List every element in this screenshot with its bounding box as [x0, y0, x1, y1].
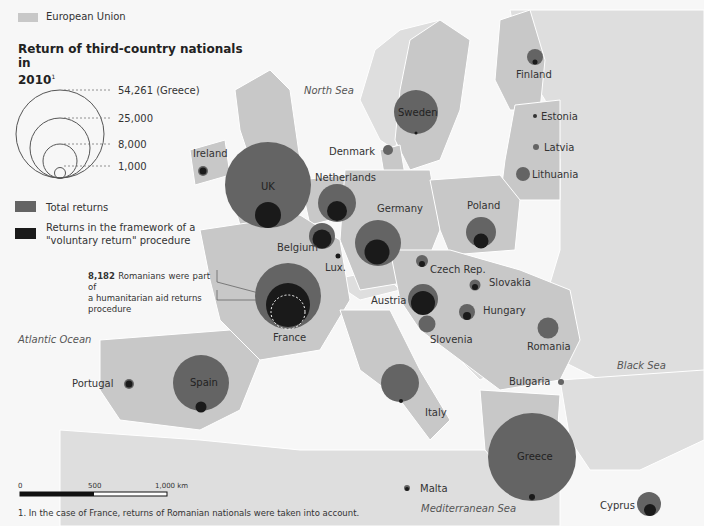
label-greece: Greece [517, 451, 553, 463]
label-sweden: Sweden [398, 107, 438, 119]
italy-total [381, 364, 419, 402]
hungary-voluntary [463, 312, 471, 320]
scale-label-max: 54,261 (Greece) [118, 84, 200, 97]
uk-voluntary [255, 202, 281, 228]
footnote: 1. In the case of France, returns of Rom… [18, 508, 359, 518]
label-italy: Italy [425, 407, 447, 419]
label-france: France [273, 332, 306, 344]
label-germany: Germany [377, 203, 423, 215]
germany-voluntary [365, 240, 390, 265]
label-austria: Austria [371, 295, 406, 307]
romania-total [538, 318, 559, 339]
sea-label-north-sea: North Sea [304, 85, 354, 97]
malta-voluntary [405, 487, 409, 491]
lithuania-total [516, 167, 530, 181]
label-finland: Finland [516, 69, 552, 81]
lux-voluntary [336, 254, 341, 259]
label-portugal: Portugal [72, 378, 113, 390]
label-slovenia: Slovenia [430, 334, 473, 346]
sea-label-atlantic: Atlantic Ocean [18, 334, 91, 346]
total-returns-swatch [15, 201, 36, 212]
legend-title: Return of third-country nationals in 201… [18, 42, 258, 87]
eu-legend-label: European Union [46, 10, 126, 23]
label-uk: UK [261, 181, 275, 193]
eu-swatch [18, 13, 38, 22]
portugal-voluntary [126, 381, 133, 388]
map-figure: European Union Return of third-country n… [0, 0, 704, 526]
voluntary-line2: "voluntary return" procedure [46, 235, 190, 246]
turkey-land [560, 370, 704, 470]
label-slovakia: Slovakia [489, 277, 531, 289]
denmark-total [383, 145, 393, 155]
scale-tick-0: 0 [18, 482, 22, 490]
voluntary-line1: Returns in the framework of a [46, 222, 195, 233]
footnote-ref: 1 [51, 73, 55, 80]
label-poland: Poland [467, 200, 500, 212]
annotation-line3: procedure [88, 304, 131, 314]
label-lux: Lux. [325, 262, 346, 274]
label-czech: Czech Rep. [430, 264, 486, 276]
label-latvia: Latvia [544, 142, 574, 154]
bulgaria-total [558, 379, 564, 385]
slovakia-voluntary [472, 284, 478, 290]
legend-title-line2: 2010 [18, 73, 51, 87]
annotation-line2: a humanitarian aid returns [88, 293, 202, 303]
label-spain: Spain [190, 377, 218, 389]
scale-tick-1000: 1,000 km [155, 482, 188, 490]
scale-tick-500: 500 [88, 482, 101, 490]
label-cyprus: Cyprus [600, 500, 635, 512]
scale-label-8000: 8,000 [118, 138, 147, 151]
label-denmark: Denmark [329, 146, 375, 158]
spain-voluntary [196, 402, 207, 413]
scale-bar [20, 492, 167, 496]
finland-voluntary [533, 60, 538, 65]
poland-voluntary [474, 234, 489, 249]
annotation-bold-number: 8,182 [88, 271, 115, 281]
total-returns-label: Total returns [46, 201, 108, 214]
greece-voluntary [529, 494, 535, 500]
legend-title-line1: Return of third-country nationals in [18, 42, 243, 70]
netherlands-voluntary [327, 201, 347, 221]
ireland-land [190, 140, 230, 185]
sea-label-mediterranean: Mediterranean Sea [421, 503, 516, 515]
france-annotation: 8,182 Romanians were part of a humanitar… [88, 271, 210, 315]
label-netherlands: Netherlands [315, 172, 376, 184]
ireland-voluntary [200, 168, 207, 175]
label-romania: Romania [527, 341, 571, 353]
size-legend-leaders [64, 90, 112, 166]
label-bulgaria: Bulgaria [509, 376, 550, 388]
voluntary-returns-label: Returns in the framework of a "voluntary… [46, 221, 195, 247]
cyprus-voluntary [644, 504, 656, 516]
estonia-total [533, 114, 537, 118]
label-lithuania: Lithuania [532, 169, 578, 181]
label-hungary: Hungary [483, 305, 526, 317]
label-belgium: Belgium [277, 242, 318, 254]
label-ireland: Ireland [193, 148, 228, 160]
latvia-total [533, 144, 539, 150]
scale-label-25000: 25,000 [118, 112, 153, 125]
czech-voluntary [419, 261, 425, 267]
sea-label-black-sea: Black Sea [617, 360, 666, 372]
austria-voluntary [411, 291, 435, 315]
size-legend-circles [16, 90, 104, 179]
voluntary-returns-swatch [15, 228, 36, 239]
slovenia-total [419, 316, 436, 333]
label-malta: Malta [420, 483, 448, 495]
label-estonia: Estonia [541, 111, 578, 123]
italy-voluntary [399, 399, 403, 403]
scale-label-1000: 1,000 [118, 160, 147, 173]
sweden-voluntary [415, 132, 418, 135]
